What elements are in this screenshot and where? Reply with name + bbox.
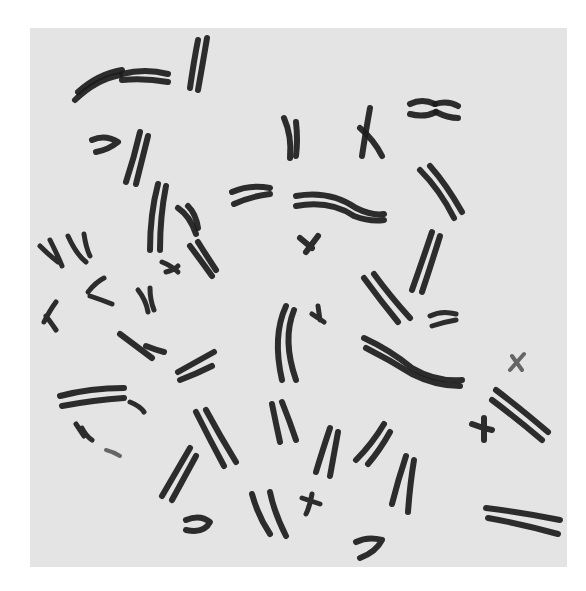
chromosome bbox=[300, 236, 318, 252]
chromosome bbox=[252, 492, 286, 536]
chromosome bbox=[356, 424, 390, 464]
chromosome bbox=[392, 456, 414, 512]
chromosome bbox=[364, 338, 462, 386]
chromosome bbox=[120, 334, 164, 358]
chromosome bbox=[360, 108, 382, 156]
chromosome bbox=[60, 388, 144, 412]
chromosome bbox=[472, 418, 492, 440]
chromosome bbox=[92, 137, 118, 152]
chromosome bbox=[106, 450, 120, 456]
chromosome bbox=[316, 428, 338, 476]
chromosome bbox=[232, 187, 270, 204]
chromosome bbox=[296, 195, 384, 221]
chromosome bbox=[364, 274, 410, 322]
chromosome bbox=[190, 242, 216, 276]
chromosome bbox=[284, 118, 297, 158]
chromosome bbox=[492, 390, 548, 440]
chromosome bbox=[190, 38, 207, 90]
chromosome bbox=[196, 410, 236, 466]
chromosome bbox=[162, 448, 196, 500]
chromosome bbox=[178, 206, 198, 234]
chromosome bbox=[178, 352, 214, 380]
chromosome bbox=[272, 402, 296, 442]
chromosome-spread bbox=[0, 0, 586, 591]
chromosome bbox=[126, 132, 148, 184]
chromosome bbox=[356, 538, 382, 558]
chromosome bbox=[186, 517, 210, 531]
chromosome bbox=[430, 312, 456, 326]
chromosome bbox=[44, 302, 56, 330]
chromosome bbox=[410, 101, 458, 118]
chromosome bbox=[88, 278, 112, 304]
chromosome bbox=[302, 494, 320, 514]
chromosome bbox=[312, 306, 324, 322]
chromosome bbox=[68, 234, 90, 262]
chromosome bbox=[75, 70, 168, 100]
chromosome bbox=[278, 306, 296, 380]
chromosome bbox=[138, 288, 154, 312]
chromosome bbox=[76, 424, 92, 440]
chromosome bbox=[510, 354, 524, 370]
chromosome bbox=[162, 262, 178, 272]
chromosome bbox=[40, 240, 62, 266]
chromosome bbox=[420, 166, 462, 218]
chromosome bbox=[486, 508, 560, 534]
chromosome bbox=[412, 232, 440, 292]
chromosome bbox=[150, 184, 166, 250]
